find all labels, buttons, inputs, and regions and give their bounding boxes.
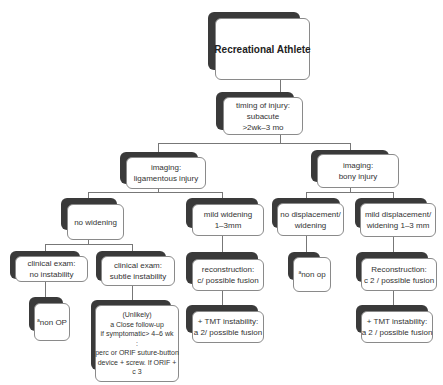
node-label: Recreational Athlete bbox=[214, 44, 310, 55]
node-label: mild displacement/ bbox=[365, 209, 431, 220]
node-label: no instability bbox=[29, 269, 73, 280]
node-label: reconstruction: bbox=[202, 264, 254, 275]
node-label: widening 1–3 mm bbox=[367, 220, 430, 231]
node-label: no widening bbox=[74, 217, 117, 228]
node-label: mild widening bbox=[204, 209, 252, 220]
node-label: no displacement/ bbox=[280, 209, 340, 220]
connector bbox=[222, 290, 223, 305]
node-label: perc or ORIF suture-button bbox=[95, 348, 179, 358]
connector bbox=[393, 235, 394, 252]
node-label: c 3 bbox=[132, 367, 141, 377]
node-label: + TMT instability: bbox=[198, 316, 258, 327]
connector bbox=[222, 235, 223, 252]
connector bbox=[45, 280, 46, 297]
node-label: timing of injury: bbox=[236, 100, 290, 111]
node-label: (Unlikely) bbox=[122, 310, 151, 320]
node-label: Reconstruction: bbox=[371, 264, 427, 275]
node-label: if symptomatic> 4–6 wk bbox=[101, 329, 174, 339]
connector bbox=[306, 192, 393, 193]
connector bbox=[45, 244, 132, 245]
node-label: subtle instability bbox=[110, 271, 166, 282]
node-label: a Close follow-up bbox=[110, 320, 164, 330]
node-label: bony injury bbox=[339, 171, 378, 182]
node-label: 1–3mm bbox=[215, 220, 242, 231]
node-label: >2wk–3 mo bbox=[242, 122, 283, 133]
connector bbox=[280, 80, 281, 92]
connector bbox=[45, 244, 46, 251]
node-label: widening bbox=[295, 220, 327, 231]
connector bbox=[158, 143, 351, 144]
node-label: imaging: bbox=[151, 162, 181, 173]
node-label: a 2 / possible fusion bbox=[362, 327, 433, 338]
node-label: anon OP bbox=[37, 317, 67, 328]
connector bbox=[280, 135, 281, 143]
node-label: + TMT instability: bbox=[367, 316, 427, 327]
node-label: ligamentous injury bbox=[134, 173, 198, 184]
connector bbox=[88, 192, 222, 193]
connector bbox=[306, 235, 307, 252]
connector bbox=[393, 291, 394, 305]
connector bbox=[132, 244, 133, 251]
node-label: clinical exam: bbox=[27, 258, 75, 269]
node-label: a 2/ possible fusion bbox=[194, 327, 263, 338]
node-label: : bbox=[136, 339, 138, 349]
node-label: imaging: bbox=[343, 160, 373, 171]
node-label: c/ possible fusion bbox=[197, 275, 258, 286]
node-label: anon op bbox=[298, 269, 325, 280]
connector bbox=[158, 143, 159, 152]
node-label: subacute bbox=[247, 111, 279, 122]
node-label: device + screw. If ORIF + bbox=[98, 358, 177, 368]
node-label: clinical exam: bbox=[114, 260, 162, 271]
node-label: c 2 / possible fusion bbox=[364, 275, 434, 286]
